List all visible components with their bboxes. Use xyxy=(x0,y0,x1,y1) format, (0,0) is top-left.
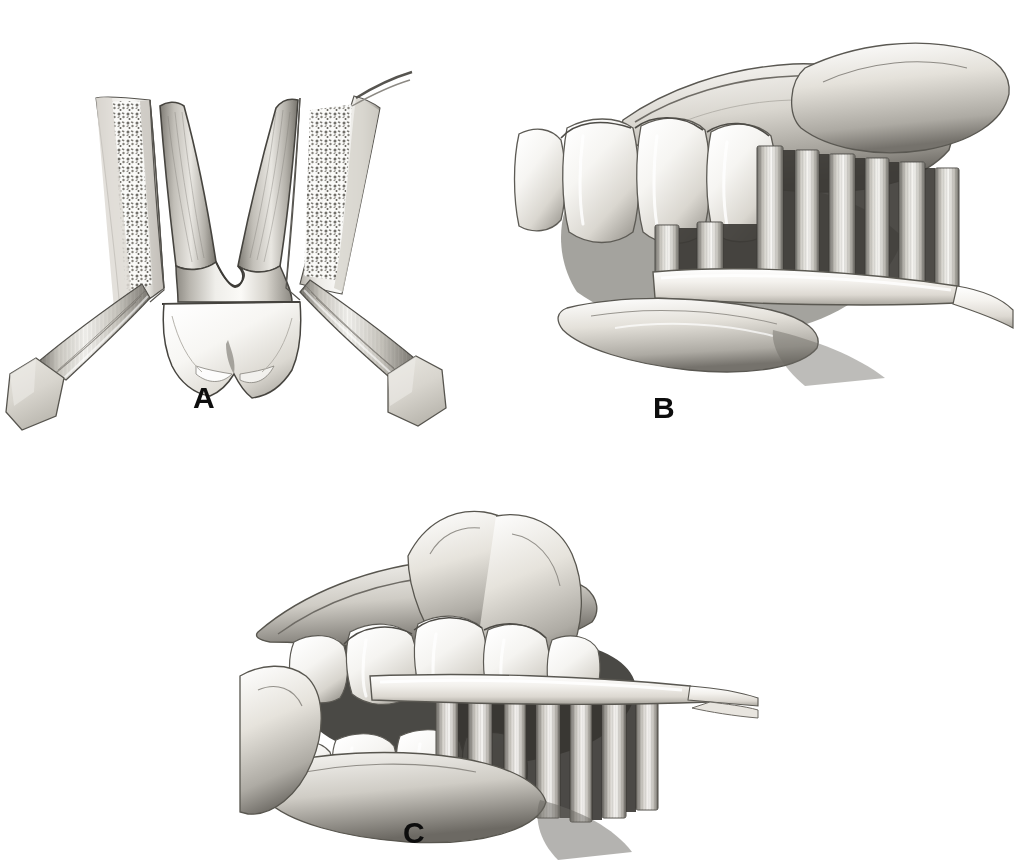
panel-a: A xyxy=(0,40,470,420)
bone-contour-right xyxy=(356,72,412,98)
index-finger xyxy=(792,43,1010,153)
bristle-bundle-right xyxy=(300,280,414,376)
cheek-shadow xyxy=(773,330,885,386)
panel-label-c: C xyxy=(403,818,425,848)
panel-c-illustration xyxy=(240,500,760,865)
mesial-root xyxy=(160,102,216,269)
toothbrush-head[interactable] xyxy=(370,674,710,704)
toothbrush-handle[interactable] xyxy=(953,286,1013,328)
alveolar-bone-right xyxy=(300,96,380,294)
bristle-bundle-left xyxy=(38,284,150,380)
panel-c: C xyxy=(240,500,760,865)
panel-b: B xyxy=(505,10,1014,430)
panel-label-b: B xyxy=(653,393,675,423)
alveolar-bone-left xyxy=(96,97,164,310)
panel-label-a: A xyxy=(193,383,215,413)
figure-root: A xyxy=(0,0,1014,865)
panel-a-illustration xyxy=(0,40,470,420)
panel-b-illustration xyxy=(505,10,1014,430)
crown xyxy=(163,302,300,398)
